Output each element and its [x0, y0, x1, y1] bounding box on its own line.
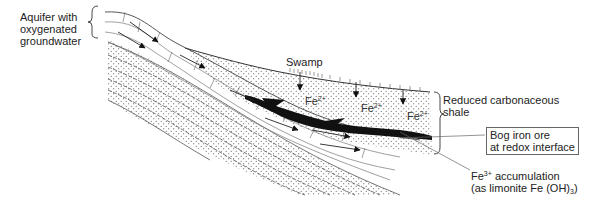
bog-iron-label-line1: Bog iron ore — [490, 129, 575, 141]
fe2-ion-1: Fe2+ — [305, 95, 326, 107]
fe3-label-line1: Fe3+ accumulation — [471, 170, 578, 182]
limonite-prefix: (as limonite Fe (OH) — [471, 182, 570, 194]
bog-iron-label-line2: at redox interface — [490, 141, 575, 153]
shale-label: Reduced carbonaceous shale — [443, 94, 559, 118]
shale-label-line1: Reduced carbonaceous — [443, 94, 559, 106]
aquifer-label-line1: Aquifer with — [20, 11, 81, 23]
bog-iron-label: Bog iron ore at redox interface — [486, 127, 579, 155]
swamp-label: Swamp — [286, 56, 323, 68]
fe3-charge: 3+ — [484, 170, 492, 177]
fe3-label: Fe3+ accumulation (as limonite Fe (OH)3) — [471, 170, 578, 194]
fe2-charge: 2+ — [420, 110, 428, 117]
fe2-base: Fe — [305, 95, 318, 107]
shale-label-line2: shale — [443, 106, 559, 118]
limonite-suffix: ) — [574, 182, 578, 194]
fe2-base: Fe — [407, 110, 420, 122]
fe3-suffix: accumulation — [492, 170, 560, 182]
aquifer-label-line2: oxygenated — [20, 23, 81, 35]
fe3-label-line2: (as limonite Fe (OH)3) — [471, 182, 578, 194]
fe2-charge: 2+ — [318, 95, 326, 102]
fe2-base: Fe — [361, 102, 374, 114]
fe3-base: Fe — [471, 170, 484, 182]
fe2-ion-2: Fe2+ — [361, 102, 382, 114]
aquifer-label-line3: groundwater — [20, 35, 81, 47]
fe2-charge: 2+ — [374, 102, 382, 109]
fe2-ion-3: Fe2+ — [407, 110, 428, 122]
aquifer-brace — [88, 6, 98, 38]
aquifer-label: Aquifer with oxygenated groundwater — [20, 11, 81, 47]
